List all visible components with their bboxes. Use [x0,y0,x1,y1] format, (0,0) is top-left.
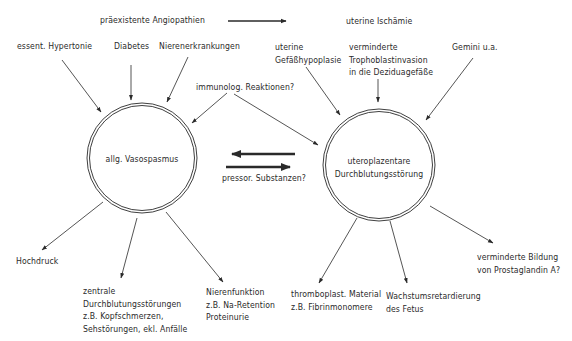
uterine-vascular-hypoplasia-label: uterine Gefäßhypoplasie [275,41,341,66]
output-central-perfusion: zentrale Durchblutungsstörungen z.B. Kop… [83,285,187,335]
essential-hypertension-label: essent. Hypertonie [17,40,92,53]
diabetes-label: Diabetes [114,40,149,53]
kidney-disease-label: Nierenerkrankungen [159,40,240,53]
output-prostaglandin: verminderte Bildung von Prostaglandin A? [477,251,560,276]
output-hochdruck: Hochdruck [16,255,58,268]
preexisting-angiopathies-label: präexistente Angiopathien [100,14,205,27]
uterine-ischemia-label: uterine Ischämie [346,15,412,28]
output-kidney-function: Nierenfunktion z.B. Na-Retention Protein… [206,286,275,324]
exchange-arrows [226,154,295,167]
output-thromboplastic-material: thromboplast. Material z.B. Fibrinmonome… [291,288,381,313]
right-output-arrows [319,206,493,283]
left-output-arrows [42,202,223,282]
gemini-label: Gemini u.a. [452,41,498,54]
right-node-label: uteroplazentare Durchblutungsstörung [324,155,434,180]
left-node-label: allg. Vasospasmus [92,153,192,166]
immunological-reactions-label: immunolog. Reaktionen? [196,81,294,94]
trophoblast-invasion-label: verminderte Trophoblastinvasion in die D… [349,41,433,79]
output-growth-retardation: Wachstumsretardierung des Fetus [386,290,481,315]
pressor-substances-label: pressor. Substanzen? [222,172,306,185]
